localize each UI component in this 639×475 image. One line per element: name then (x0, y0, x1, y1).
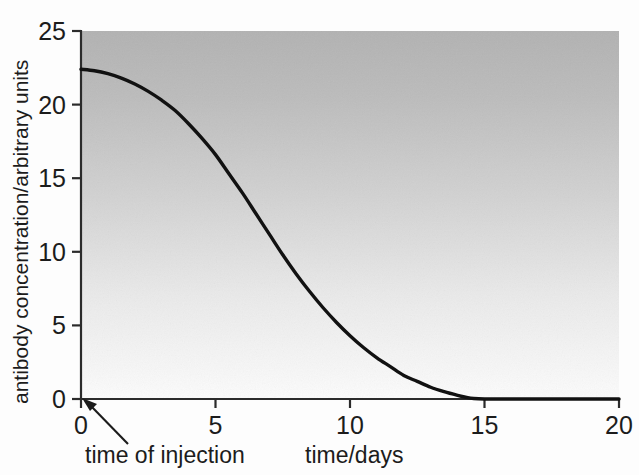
x-tick-label: 10 (336, 411, 364, 439)
y-tick-label: 0 (52, 385, 66, 413)
y-tick-label: 5 (52, 311, 66, 339)
x-tick-label: 0 (74, 411, 88, 439)
x-tick-label: 5 (209, 411, 223, 439)
y-tick-label: 15 (38, 164, 66, 192)
injection-pointer-arrow (82, 398, 128, 444)
x-tick-label: 20 (605, 411, 633, 439)
chart-canvas: 0510152025 05101520 time of injection ti… (0, 0, 639, 475)
y-axis-title: antibody concentration/arbitrary units (9, 60, 32, 404)
injection-annotation-label: time of injection (85, 442, 245, 468)
x-axis-title: time/days (305, 442, 403, 468)
x-tick-label: 15 (471, 411, 499, 439)
plot-background (81, 31, 619, 399)
y-tick-label: 10 (38, 238, 66, 266)
x-axis-ticks: 05101520 (74, 399, 633, 439)
y-axis-ticks: 0510152025 (38, 17, 81, 413)
y-tick-label: 20 (38, 91, 66, 119)
antibody-decay-chart-figure: 0510152025 05101520 time of injection ti… (0, 0, 639, 475)
y-tick-label: 25 (38, 17, 66, 45)
